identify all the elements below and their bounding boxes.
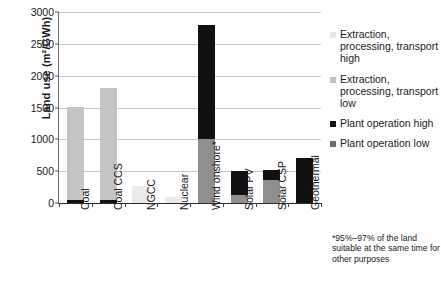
x-axis-tick-label: Solar CSP <box>276 161 288 210</box>
y-axis-tick-label: 2500 <box>14 38 54 50</box>
x-axis-tick-mark <box>288 203 289 207</box>
x-axis-tick-mark <box>190 203 191 207</box>
legend-label-extraction-high: Extraction, processing, transport high <box>340 28 441 65</box>
x-axis-tick-label: NGCC <box>145 179 157 210</box>
legend-swatch-icon-extraction-high <box>330 32 336 38</box>
x-axis-tick-mark <box>125 203 126 207</box>
y-axis-tick-mark <box>55 75 59 76</box>
x-axis-tick-mark <box>92 203 93 207</box>
legend-item-plant-operation-low: Plant operation low <box>330 137 441 149</box>
legend-label-plant-operation-low: Plant operation low <box>340 137 429 149</box>
gridline <box>59 139 321 140</box>
legend-item-plant-operation-high: Plant operation high <box>330 117 441 129</box>
y-axis-tick-label: 1000 <box>14 133 54 145</box>
y-axis-tick-mark <box>55 171 59 172</box>
x-axis-tick-mark <box>223 203 224 207</box>
legend-item-extraction-high: Extraction, processing, transport high <box>330 28 441 65</box>
x-axis-tick-label: Coal CCS <box>112 163 124 210</box>
bar-segment <box>67 107 84 201</box>
y-axis-tick-label: 1500 <box>14 102 54 114</box>
chart-legend: Extraction, processing, transport high E… <box>330 28 441 158</box>
legend-swatch-icon-plant-operation-low <box>330 141 336 147</box>
y-axis-tick-label: 3000 <box>14 6 54 18</box>
y-axis-tick-mark <box>55 12 59 13</box>
x-axis-tick-mark <box>157 203 158 207</box>
legend-swatch-icon-extraction-low <box>330 77 336 83</box>
legend-label-extraction-low: Extraction, processing, transport low <box>340 73 441 110</box>
gridline <box>59 44 321 45</box>
y-axis-tick-mark <box>55 107 59 108</box>
y-axis-tick-label: 0 <box>14 197 54 209</box>
legend-label-plant-operation-high: Plant operation high <box>340 117 433 129</box>
land-use-bar-chart: Land use (m²/GWh) 0500100015002000250030… <box>0 0 441 291</box>
x-axis-tick-label: Solar PV <box>243 169 255 210</box>
legend-swatch-icon-plant-operation-high <box>330 121 336 127</box>
x-axis-tick-label: Coal <box>79 188 91 210</box>
x-axis-tick-mark <box>59 203 60 207</box>
x-axis-tick-mark <box>256 203 257 207</box>
bar-segment <box>198 25 215 139</box>
x-axis-tick-mark <box>321 203 322 207</box>
y-axis-tick-mark <box>55 139 59 140</box>
y-axis-tick-mark <box>55 43 59 44</box>
y-axis-tick-label: 2000 <box>14 70 54 82</box>
legend-item-extraction-low: Extraction, processing, transport low <box>330 73 441 110</box>
gridline <box>59 76 321 77</box>
gridline <box>59 12 321 13</box>
gridline <box>59 108 321 109</box>
y-axis-tick-label: 500 <box>14 165 54 177</box>
chart-footnote: *95%–97% of the land suitable at the sam… <box>332 233 440 264</box>
x-axis-tick-label: Wind onshore* <box>210 141 222 210</box>
plot-area: 050010001500200025003000CoalCoal CCSNGCC… <box>58 12 321 204</box>
x-axis-tick-label: Nuclear <box>178 174 190 210</box>
x-axis-tick-label: Geothermal <box>309 155 321 210</box>
